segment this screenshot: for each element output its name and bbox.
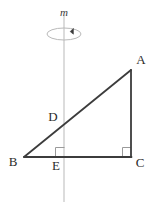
vertex-label-D: D: [48, 109, 57, 124]
segment-AB-hypotenuse: [24, 70, 131, 157]
right-angle-marker-at-C: [123, 148, 131, 157]
right-angle-marker-at-E: [56, 148, 65, 157]
rotation-direction-arrow-icon: [70, 28, 73, 34]
vertex-label-E: E: [52, 158, 60, 173]
vertex-label-A: A: [136, 52, 146, 67]
axis-label-m: m: [60, 6, 68, 18]
geometry-figure-canvas: A B C D E m: [0, 0, 161, 207]
vertex-label-C: C: [136, 155, 145, 170]
geometry-figure-svg: A B C D E m: [0, 0, 161, 207]
vertex-label-B: B: [9, 154, 18, 169]
